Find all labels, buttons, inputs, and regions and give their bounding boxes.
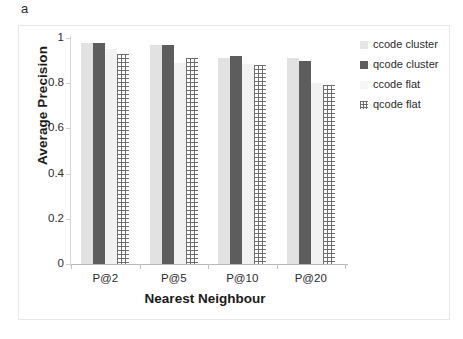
legend-label: qcode flat bbox=[373, 99, 421, 110]
legend-item[interactable]: qcode flat bbox=[360, 96, 460, 113]
bar bbox=[311, 83, 323, 264]
legend-label: ccode cluster bbox=[373, 39, 438, 50]
bar bbox=[117, 54, 129, 264]
x-axis-tick-mark bbox=[140, 264, 141, 269]
x-axis-title: Nearest Neighbour bbox=[40, 291, 370, 306]
bar bbox=[287, 58, 299, 264]
bar bbox=[323, 85, 335, 264]
bar-group bbox=[277, 38, 346, 264]
legend-label: qcode cluster bbox=[373, 59, 438, 70]
x-axis-category-label: P@10 bbox=[208, 272, 277, 292]
legend-item[interactable]: ccode cluster bbox=[360, 36, 460, 53]
x-axis-tick-mark bbox=[345, 264, 346, 269]
bar-group bbox=[71, 38, 140, 264]
bar bbox=[254, 65, 266, 264]
x-axis-category-label: P@2 bbox=[71, 272, 140, 292]
legend-swatch-icon bbox=[360, 61, 368, 69]
legend-item[interactable]: ccode flat bbox=[360, 76, 460, 93]
bar bbox=[242, 64, 254, 264]
x-axis-category-labels: P@2P@5P@10P@20 bbox=[71, 272, 345, 292]
y-axis-tick-label: 0 bbox=[24, 258, 64, 270]
x-axis-tick-mark bbox=[71, 264, 72, 269]
legend-swatch-icon bbox=[360, 101, 368, 109]
legend: ccode clusterqcode clusterccode flatqcod… bbox=[360, 36, 460, 116]
legend-swatch-icon bbox=[360, 41, 368, 49]
y-axis-tick-mark bbox=[66, 128, 71, 129]
x-axis-tick-mark bbox=[277, 264, 278, 269]
y-axis-tick-mark bbox=[66, 219, 71, 220]
x-axis-line bbox=[70, 264, 348, 265]
x-axis-tick-mark bbox=[208, 264, 209, 269]
bar bbox=[230, 56, 242, 264]
bar-groups bbox=[71, 38, 345, 264]
legend-label: ccode flat bbox=[373, 79, 420, 90]
y-axis-tick-mark bbox=[66, 174, 71, 175]
x-axis-category-label: P@5 bbox=[140, 272, 209, 292]
bar bbox=[150, 45, 162, 264]
bar bbox=[93, 43, 105, 264]
x-axis-category-label: P@20 bbox=[277, 272, 346, 292]
y-axis-tick-mark bbox=[66, 83, 71, 84]
bar-group bbox=[140, 38, 209, 264]
legend-swatch-icon bbox=[360, 81, 368, 89]
bar bbox=[186, 58, 198, 264]
y-axis-title: Average Precision bbox=[35, 16, 50, 196]
y-axis-tick-label: 0.2 bbox=[24, 213, 64, 225]
bar bbox=[299, 61, 311, 264]
legend-item[interactable]: qcode cluster bbox=[360, 56, 460, 73]
bar bbox=[105, 49, 117, 264]
bar-group bbox=[208, 38, 277, 264]
bar bbox=[174, 63, 186, 264]
bar bbox=[81, 43, 93, 264]
y-axis-tick-mark bbox=[66, 38, 71, 39]
bar bbox=[218, 58, 230, 264]
bar bbox=[162, 45, 174, 264]
